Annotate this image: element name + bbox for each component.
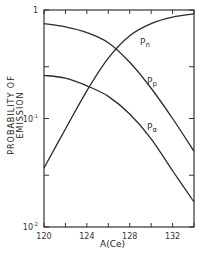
plot-axes: 12012412813210-210-11 bbox=[23, 6, 194, 241]
y-axis-label: PROBABILITY OF EMISSION bbox=[7, 55, 25, 175]
label-pn: Pn bbox=[140, 37, 150, 49]
y-tick-label: 10-1 bbox=[23, 113, 38, 124]
curve-pp bbox=[44, 24, 194, 152]
label-palpha: Pα bbox=[147, 122, 157, 134]
curve-pa bbox=[44, 75, 194, 202]
x-tick-label: 132 bbox=[165, 232, 180, 241]
x-tick-label: 120 bbox=[36, 232, 51, 241]
x-tick-label: 124 bbox=[79, 232, 94, 241]
x-axis-label: A(Ce) bbox=[100, 239, 125, 249]
curve-labels: PnPpPα bbox=[140, 37, 157, 134]
plot-frame bbox=[44, 10, 194, 227]
plot-curves bbox=[44, 14, 194, 202]
chart-svg: 12012412813210-210-11 PnPpPα bbox=[0, 0, 203, 258]
curve-pn bbox=[44, 14, 194, 168]
label-pp: Pp bbox=[147, 76, 157, 88]
y-tick-label: 1 bbox=[33, 6, 38, 15]
y-tick-label: 10-2 bbox=[23, 221, 38, 232]
